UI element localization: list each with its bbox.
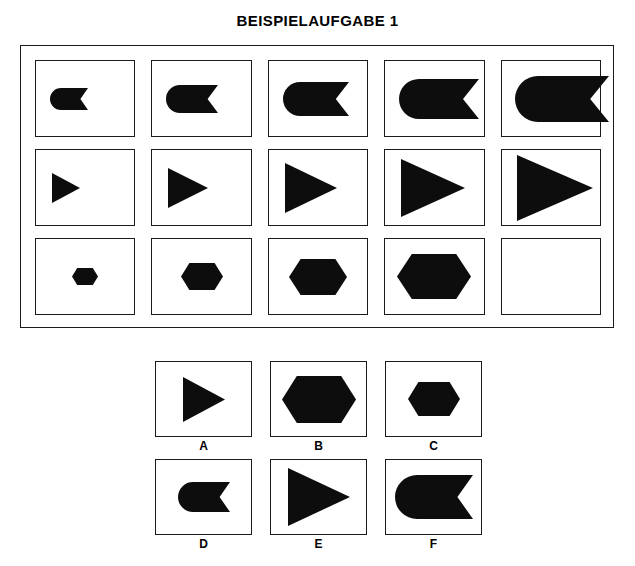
answer-option-box-d[interactable] [155, 459, 252, 535]
hexagon-shape [72, 268, 98, 285]
matrix-cell-r3c3 [268, 238, 368, 315]
matrix-cell-r2c1 [35, 149, 135, 226]
answer-option-e[interactable]: E [270, 459, 367, 552]
answer-option-label-c: C [385, 437, 482, 454]
answer-options-row-2: DEF [155, 459, 483, 552]
flag-shape [395, 475, 473, 519]
cell-art [152, 150, 250, 225]
matrix-cell-r1c5 [501, 60, 601, 137]
answer-option-box-e[interactable] [270, 459, 367, 535]
triangle-shape [52, 173, 80, 203]
cell-art [152, 61, 250, 136]
hexagon-shape [397, 254, 471, 299]
answer-option-box-b[interactable] [270, 361, 367, 437]
hexagon-shape [289, 259, 347, 295]
cell-art [269, 61, 367, 136]
answer-options-row-1: ABC [155, 361, 483, 454]
cell-art [502, 61, 600, 136]
cell-art [152, 239, 250, 314]
answer-option-label-a: A [155, 437, 252, 454]
matrix-cell-r1c2 [151, 60, 251, 137]
triangle-shape [168, 168, 208, 208]
answer-option-label-f: F [385, 535, 482, 552]
answer-option-a[interactable]: A [155, 361, 252, 454]
flag-shape [515, 76, 609, 122]
cell-art [385, 150, 483, 225]
option-art [271, 460, 366, 534]
option-art [271, 362, 366, 436]
matrix-cell-r1c1 [35, 60, 135, 137]
answer-option-box-f[interactable] [385, 459, 482, 535]
cell-art [269, 150, 367, 225]
triangle-shape [401, 159, 465, 217]
matrix-cell-r2c4 [384, 149, 484, 226]
matrix-cell-r2c3 [268, 149, 368, 226]
option-art [156, 460, 251, 534]
matrix-cell-r3c2 [151, 238, 251, 315]
triangle-shape [183, 377, 225, 422]
cell-art [385, 61, 483, 136]
matrix-cell-r2c5 [501, 149, 601, 226]
flag-shape [50, 88, 88, 110]
matrix-grid [35, 60, 601, 315]
option-art [386, 460, 481, 534]
flag-shape [283, 82, 349, 116]
answer-option-label-e: E [270, 535, 367, 552]
answer-option-c[interactable]: C [385, 361, 482, 454]
answer-option-label-d: D [155, 535, 252, 552]
cell-art [269, 239, 367, 314]
matrix-cell-r1c3 [268, 60, 368, 137]
cell-art [36, 150, 134, 225]
matrix-cell-r1c4 [384, 60, 484, 137]
answer-option-box-c[interactable] [385, 361, 482, 437]
matrix-cell-r2c2 [151, 149, 251, 226]
hexagon-shape [408, 382, 460, 416]
triangle-shape [285, 163, 337, 213]
triangle-shape [517, 155, 593, 221]
answer-option-f[interactable]: F [385, 459, 482, 552]
answer-options: ABC DEF [155, 361, 483, 557]
flag-shape [178, 482, 230, 512]
page-title: BEISPIELAUFGABE 1 [0, 12, 635, 29]
matrix-cell-empty[interactable] [501, 238, 601, 315]
answer-option-box-a[interactable] [155, 361, 252, 437]
cell-art [502, 239, 600, 314]
answer-option-d[interactable]: D [155, 459, 252, 552]
option-art [156, 362, 251, 436]
cell-art [36, 239, 134, 314]
triangle-shape [288, 468, 350, 526]
flag-shape [399, 79, 479, 119]
cell-art [502, 150, 600, 225]
hexagon-shape [181, 263, 223, 290]
matrix-cell-r3c1 [35, 238, 135, 315]
matrix-frame [20, 45, 614, 328]
answer-option-b[interactable]: B [270, 361, 367, 454]
matrix-cell-r3c4 [384, 238, 484, 315]
answer-option-label-b: B [270, 437, 367, 454]
hexagon-shape [282, 376, 356, 423]
option-art [386, 362, 481, 436]
cell-art [36, 61, 134, 136]
flag-shape [166, 85, 218, 113]
cell-art [385, 239, 483, 314]
